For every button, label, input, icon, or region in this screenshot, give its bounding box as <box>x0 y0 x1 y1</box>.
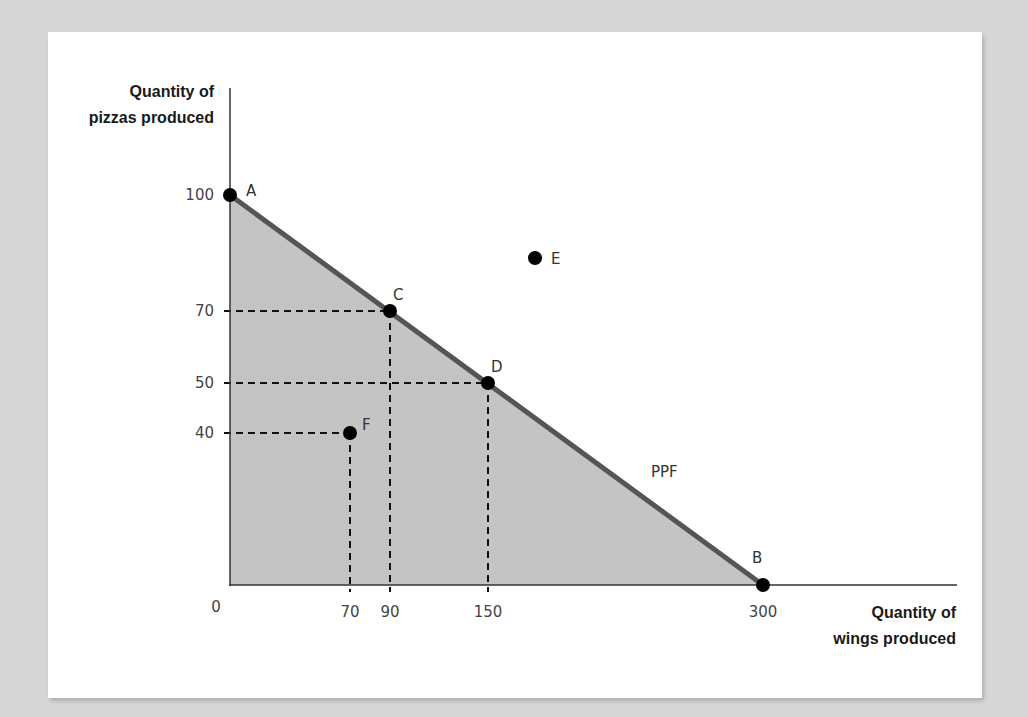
y-tick-50: 50 <box>195 374 214 392</box>
x-tick-70: 70 <box>340 603 359 621</box>
point-a <box>223 188 237 202</box>
label-f: F <box>362 416 371 434</box>
x-tick-150: 150 <box>474 603 503 621</box>
ppf-chart: A C D B E F PPF 100 70 50 40 0 70 90 150… <box>0 0 1028 717</box>
point-c <box>383 304 397 318</box>
point-b <box>756 578 770 592</box>
label-c: C <box>393 286 403 304</box>
point-e <box>528 251 542 265</box>
y-tick-40: 40 <box>195 424 214 442</box>
point-f <box>343 426 357 440</box>
x-tick-90: 90 <box>380 603 399 621</box>
label-d: D <box>491 358 503 376</box>
point-d <box>481 376 495 390</box>
origin-label: 0 <box>211 598 221 616</box>
y-tick-70: 70 <box>195 302 214 320</box>
x-axis-title-line1: Quantity of <box>872 604 957 621</box>
label-a: A <box>246 182 257 200</box>
x-axis-title-line2: wings produced <box>832 630 956 647</box>
x-tick-300: 300 <box>749 603 778 621</box>
y-axis-title-line1: Quantity of <box>130 83 215 100</box>
y-tick-100: 100 <box>185 186 214 204</box>
ppf-label: PPF <box>651 463 678 481</box>
label-e: E <box>551 250 560 268</box>
y-axis-title-line2: pizzas produced <box>89 109 214 126</box>
label-b: B <box>752 549 762 567</box>
